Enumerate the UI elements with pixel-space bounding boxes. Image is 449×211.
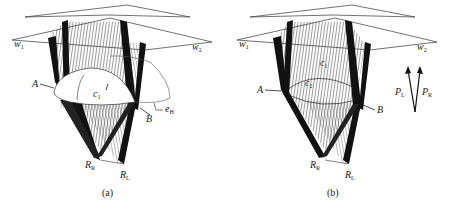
figure-canvas: w1 w2 A B c1 eH RR RL (a) <box>0 0 449 211</box>
label-w1-b: w1 <box>239 38 249 50</box>
arrow-A-a <box>40 84 54 88</box>
label-RR-b: RR <box>309 159 320 171</box>
label-w2-a: w2 <box>192 41 202 53</box>
label-RR-a: RR <box>84 159 95 171</box>
arrow-PL-icon <box>405 66 415 112</box>
label-B-a: B <box>146 113 152 124</box>
label-RL-a: RL <box>119 169 130 181</box>
label-RL-b: RL <box>344 169 355 181</box>
label-w2-b: w2 <box>417 41 427 53</box>
arrow-B-b <box>363 105 375 110</box>
caption-b: (b) <box>327 187 339 199</box>
label-A-a: A <box>31 78 39 89</box>
label-PR: PR <box>421 86 432 98</box>
label-PL: PL <box>394 86 405 98</box>
panel-a: w1 w2 A B c1 eH RR RL (a) <box>12 5 212 199</box>
arrow-A-b <box>265 90 281 91</box>
label-eH: eH <box>165 103 174 115</box>
label-w1-a: w1 <box>14 38 24 50</box>
label-B-b: B <box>377 104 383 115</box>
panel-b: w1 w2 A B c1 c2 PL PR RR RL (b) <box>237 5 437 199</box>
label-A-b: A <box>256 84 264 95</box>
caption-a: (a) <box>102 187 113 199</box>
